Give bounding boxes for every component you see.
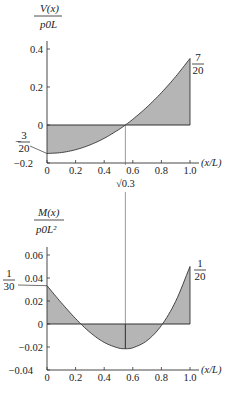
moment-y-tick-label: −0.02 — [19, 342, 43, 353]
shear-x-axis-label: (x/L) — [201, 157, 222, 169]
shear-y-tick-label: −0.2 — [14, 158, 33, 169]
svg-text:7: 7 — [195, 51, 201, 63]
svg-text:20: 20 — [19, 142, 31, 154]
moment-area — [47, 267, 190, 349]
shear-ylabel-numerator: V(x) — [40, 2, 59, 15]
moment-x-axis-label: (x/L) — [201, 364, 222, 376]
moment-x-tick-label: 0.2 — [69, 372, 82, 383]
annotation-1-30: 130 — [3, 267, 15, 292]
shear-ylabel: V(x) p0L — [34, 2, 62, 30]
svg-text:1: 1 — [6, 267, 12, 279]
shear-x-tick-label: 0.8 — [155, 165, 168, 176]
shear-y-tick-label: 0 — [38, 120, 43, 131]
shear-x-tick-label: 0 — [44, 165, 49, 176]
shear-x-tick-label: 1.0 — [183, 165, 196, 176]
svg-text:20: 20 — [193, 64, 205, 76]
moment-plot: M(x) p0L² 0.060.040.020−0.02−0.0400.20.4… — [9, 206, 222, 383]
moment-x-tick-label: 1.0 — [183, 372, 196, 383]
moment-x-tick-label: 0.6 — [126, 372, 139, 383]
moment-ylabel-denominator: p0L² — [35, 223, 57, 235]
moment-y-tick-label: 0.06 — [25, 250, 43, 261]
svg-text:30: 30 — [4, 280, 16, 292]
sqrt-0.3-label: √0.3 — [116, 178, 135, 189]
svg-text:20: 20 — [195, 270, 207, 282]
moment-y-tick-label: 0.02 — [25, 296, 43, 307]
moment-axes: 0.060.040.020−0.02−0.0400.20.40.60.81.0(… — [9, 247, 222, 383]
shear-x-tick-label: 0.4 — [98, 165, 112, 176]
shear-x-tick-label: 0.2 — [69, 165, 82, 176]
svg-text:3: 3 — [21, 129, 27, 141]
annotation-7-20: 720 — [192, 51, 204, 76]
sqrt-0.3-marker: √0.3 — [116, 125, 135, 349]
moment-y-tick-label: 0 — [38, 319, 43, 330]
moment-x-tick-label: 0 — [44, 372, 49, 383]
shear-ylabel-denominator: p0L — [39, 18, 57, 30]
moment-y-tick-label: −0.04 — [9, 365, 34, 376]
shear-plot: V(x) p0L 0.40.20−0.200.20.40.60.81.0(x/L… — [14, 2, 222, 176]
moment-x-tick-label: 0.4 — [98, 372, 112, 383]
moment-x-tick-label: 0.8 — [155, 372, 168, 383]
annotation-minus-3-20: −320 — [15, 129, 30, 154]
shear-y-tick-label: 0.2 — [30, 82, 43, 93]
shear-area — [47, 59, 190, 154]
annotation-1-20: 120 — [194, 257, 206, 282]
shear-moment-diagrams: V(x) p0L 0.40.20−0.200.20.40.60.81.0(x/L… — [0, 0, 231, 393]
svg-text:1: 1 — [197, 257, 203, 269]
shear-y-tick-label: 0.4 — [30, 44, 44, 55]
moment-ylabel-numerator: M(x) — [37, 206, 60, 219]
moment-ylabel: M(x) p0L² — [34, 206, 64, 235]
shear-axes: 0.40.20−0.200.20.40.60.81.0(x/L) — [14, 41, 222, 176]
shear-x-tick-label: 0.6 — [126, 165, 139, 176]
moment-y-tick-label: 0.04 — [25, 273, 44, 284]
